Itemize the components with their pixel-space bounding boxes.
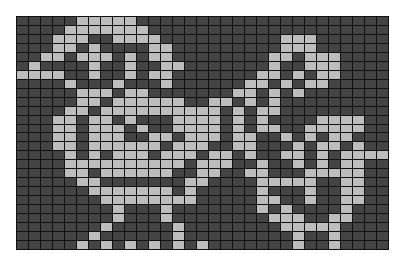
grid-cell xyxy=(233,178,244,186)
grid-cell xyxy=(341,53,352,61)
pixel-pattern-grid xyxy=(16,16,389,250)
grid-cell xyxy=(197,98,208,106)
grid-cell xyxy=(185,178,196,186)
grid-cell xyxy=(245,232,256,240)
grid-cell xyxy=(221,241,232,249)
grid-cell xyxy=(245,196,256,204)
grid-cell xyxy=(113,142,124,150)
grid-cell xyxy=(89,98,100,106)
grid-cell xyxy=(197,232,208,240)
grid-cell xyxy=(53,53,64,61)
grid-cell xyxy=(353,98,364,106)
grid-cell xyxy=(65,71,76,79)
grid-cell xyxy=(41,151,52,159)
grid-cell xyxy=(101,98,112,106)
grid-cell xyxy=(197,205,208,213)
grid-cell xyxy=(65,133,76,141)
grid-cell xyxy=(221,223,232,231)
grid-cell xyxy=(53,116,64,124)
grid-cell xyxy=(101,205,112,213)
grid-cell xyxy=(317,71,328,79)
grid-cell xyxy=(245,125,256,133)
grid-cell xyxy=(113,187,124,195)
grid-cell xyxy=(101,133,112,141)
grid-cell xyxy=(221,116,232,124)
grid-cell xyxy=(317,187,328,195)
grid-cell xyxy=(293,89,304,97)
grid-cell xyxy=(365,196,376,204)
grid-cell xyxy=(233,17,244,25)
grid-cell xyxy=(125,232,136,240)
grid-cell xyxy=(257,223,268,231)
grid-cell xyxy=(161,116,172,124)
grid-cell xyxy=(149,196,160,204)
grid-cell xyxy=(197,223,208,231)
grid-cell xyxy=(29,35,40,43)
grid-cell xyxy=(281,17,292,25)
grid-cell xyxy=(257,232,268,240)
grid-cell xyxy=(329,17,340,25)
grid-cell xyxy=(65,98,76,106)
grid-cell xyxy=(173,89,184,97)
grid-cell xyxy=(281,214,292,222)
grid-cell xyxy=(209,142,220,150)
grid-cell xyxy=(101,178,112,186)
grid-cell xyxy=(281,53,292,61)
grid-cell xyxy=(317,196,328,204)
grid-cell xyxy=(341,71,352,79)
grid-cell xyxy=(281,89,292,97)
grid-cell xyxy=(377,133,388,141)
grid-cell xyxy=(125,53,136,61)
grid-cell xyxy=(293,178,304,186)
grid-cell xyxy=(185,116,196,124)
grid-cell xyxy=(293,214,304,222)
grid-cell xyxy=(125,223,136,231)
grid-cell xyxy=(41,241,52,249)
grid-cell xyxy=(341,187,352,195)
grid-cell xyxy=(257,214,268,222)
grid-cell xyxy=(65,107,76,115)
grid-cell xyxy=(353,44,364,52)
grid-cell xyxy=(185,187,196,195)
grid-cell xyxy=(113,17,124,25)
grid-cell xyxy=(149,232,160,240)
grid-cell xyxy=(185,53,196,61)
grid-cell xyxy=(89,125,100,133)
grid-cell xyxy=(125,196,136,204)
grid-cell xyxy=(185,17,196,25)
grid-cell xyxy=(377,98,388,106)
grid-cell xyxy=(377,35,388,43)
grid-cell xyxy=(197,35,208,43)
grid-cell xyxy=(281,232,292,240)
grid-cell xyxy=(317,214,328,222)
grid-cell xyxy=(305,89,316,97)
grid-cell xyxy=(53,62,64,70)
grid-cell xyxy=(161,241,172,249)
grid-cell xyxy=(41,80,52,88)
grid-cell xyxy=(185,98,196,106)
grid-cell xyxy=(185,214,196,222)
grid-cell xyxy=(245,17,256,25)
grid-cell xyxy=(149,17,160,25)
grid-cell xyxy=(233,133,244,141)
grid-cell xyxy=(41,214,52,222)
grid-cell xyxy=(29,71,40,79)
grid-cell xyxy=(293,116,304,124)
grid-cell xyxy=(65,80,76,88)
grid-cell xyxy=(365,223,376,231)
grid-cell xyxy=(353,71,364,79)
grid-cell xyxy=(113,35,124,43)
grid-cell xyxy=(29,214,40,222)
grid-cell xyxy=(305,116,316,124)
grid-cell xyxy=(329,205,340,213)
grid-cell xyxy=(173,17,184,25)
grid-cell xyxy=(17,241,28,249)
grid-cell xyxy=(221,71,232,79)
grid-cell xyxy=(17,107,28,115)
grid-cell xyxy=(185,241,196,249)
grid-cell xyxy=(293,35,304,43)
grid-cell xyxy=(293,241,304,249)
grid-cell xyxy=(53,80,64,88)
grid-cell xyxy=(209,223,220,231)
grid-cell xyxy=(257,71,268,79)
